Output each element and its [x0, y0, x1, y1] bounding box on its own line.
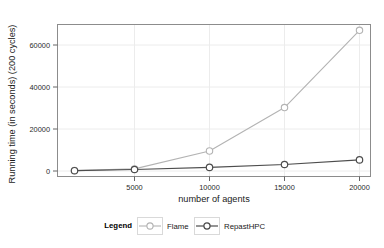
- legend-title: Legend: [104, 221, 132, 230]
- y-axis-title: Running time (in seconds) (200 cycles): [7, 25, 17, 184]
- legend-label-flame: Flame: [167, 222, 189, 231]
- ytick-label-40000: 40000: [29, 83, 50, 92]
- xtick-label-5000: 5000: [126, 183, 142, 192]
- flame-point-20000: [356, 27, 362, 33]
- y-axis-title-group: Running time (in seconds) (200 cycles): [7, 25, 17, 184]
- repasthpc-point-1000: [71, 168, 77, 174]
- xtick-label-15000: 15000: [274, 183, 295, 192]
- flame-point-15000: [281, 104, 287, 110]
- xtick-label-20000: 20000: [349, 183, 370, 192]
- repasthpc-point-15000: [281, 161, 287, 167]
- plot-panel: [58, 25, 371, 177]
- repasthpc-point-5000: [131, 166, 137, 172]
- legend-key-marker-flame: [147, 223, 153, 229]
- panel-border: [58, 25, 371, 177]
- flame-point-10000: [206, 148, 212, 154]
- xtick-label-10000: 10000: [199, 183, 220, 192]
- ytick-label-60000: 60000: [29, 41, 50, 50]
- repasthpc-point-10000: [206, 164, 212, 170]
- legend-label-repasthpc: RepastHPC: [224, 222, 266, 231]
- repasthpc-point-20000: [356, 157, 362, 163]
- legend-key-marker-repasthpc: [204, 223, 210, 229]
- x-axis-title: number of agents: [178, 194, 250, 204]
- ytick-label-20000: 20000: [29, 125, 50, 134]
- chart-figure: Running time (in seconds) (200 cycles): [0, 0, 384, 248]
- ytick-label-0: 0: [46, 167, 50, 176]
- line-chart: Running time (in seconds) (200 cycles): [0, 0, 384, 248]
